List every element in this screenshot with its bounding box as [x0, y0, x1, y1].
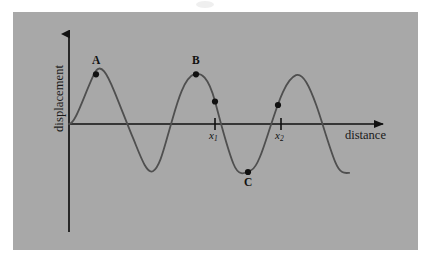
x-tick-label-2: x2	[275, 129, 284, 141]
data-point-x2	[275, 102, 281, 108]
data-point-a	[93, 71, 99, 77]
point-label-b: B	[192, 54, 200, 66]
data-point-x1	[212, 98, 218, 104]
point-label-c: C	[244, 176, 252, 188]
wave-curve	[69, 68, 349, 173]
x2-sub: 2	[280, 134, 284, 143]
data-point-b	[193, 71, 199, 77]
point-label-a: A	[92, 54, 100, 66]
x1-sub: 1	[214, 134, 218, 143]
x-tick-label-1: x1	[209, 129, 218, 141]
y-axis-label: displacement	[52, 65, 67, 132]
x-axis-label: distance	[345, 128, 386, 143]
data-point-c	[245, 169, 251, 175]
figure-container: displacement distance A B C x1 x2	[0, 0, 435, 264]
